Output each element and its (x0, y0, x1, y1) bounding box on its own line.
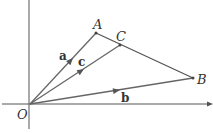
label-o: O (17, 107, 28, 122)
label-vector-b: b (121, 91, 129, 105)
label-vector-a: a (59, 49, 67, 63)
segment-ab (96, 33, 193, 78)
vector-diagram: O A C B a c b (0, 0, 213, 133)
label-vector-c: c (78, 55, 85, 69)
x-axis-arrow-icon (207, 102, 213, 107)
arrow-b-icon (113, 87, 121, 94)
vector-b (30, 78, 193, 104)
label-b: B (196, 72, 207, 87)
label-c: C (116, 29, 126, 44)
label-a: A (92, 17, 102, 32)
vector-c (30, 45, 120, 104)
point-b (192, 77, 195, 80)
vector-a (30, 33, 96, 104)
